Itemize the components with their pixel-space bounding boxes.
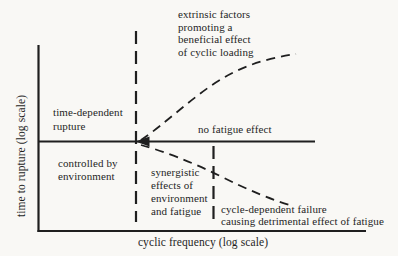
cycle-dependent-failure-annotation: cycle-dependent failure causing detrimen… bbox=[221, 203, 384, 227]
y-axis-title: time to rupture (log scale) bbox=[15, 95, 28, 217]
fatigue-frequency-diagram: extrinsic factors promoting a beneficial… bbox=[0, 0, 398, 256]
x-axis-title: cyclic frequency (log scale) bbox=[40, 236, 366, 249]
synergistic-effects-annotation: synergistic effects of environment and f… bbox=[151, 166, 208, 218]
controlled-by-environment-annotation: controlled by environment bbox=[58, 157, 118, 183]
extrinsic-factors-annotation: extrinsic factors promoting a beneficial… bbox=[178, 8, 254, 58]
time-dependent-rupture-annotation: time-dependent rupture bbox=[53, 105, 123, 133]
no-fatigue-effect-annotation: no fatigue effect bbox=[198, 123, 272, 136]
